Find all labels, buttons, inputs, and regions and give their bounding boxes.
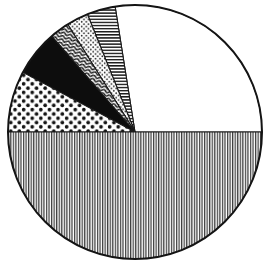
pie-chart-figure	[0, 0, 271, 265]
pie-chart-svg	[0, 0, 271, 265]
pie-slice-vertical-lines	[8, 132, 262, 259]
pie-slice-blank	[115, 5, 262, 132]
